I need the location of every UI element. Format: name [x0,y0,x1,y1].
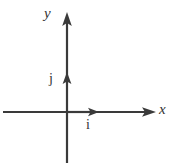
unit-vector-j-label: j [49,72,53,86]
unit-vector-i-label: i [86,118,90,132]
x-axis-label: x [159,102,166,117]
axes-drawing [0,0,177,166]
vector-diagram-figure: y x j i [0,0,177,166]
unit-vector-i-group [67,108,99,116]
y-axis-label: y [44,6,51,21]
y-axis-group [62,12,72,163]
